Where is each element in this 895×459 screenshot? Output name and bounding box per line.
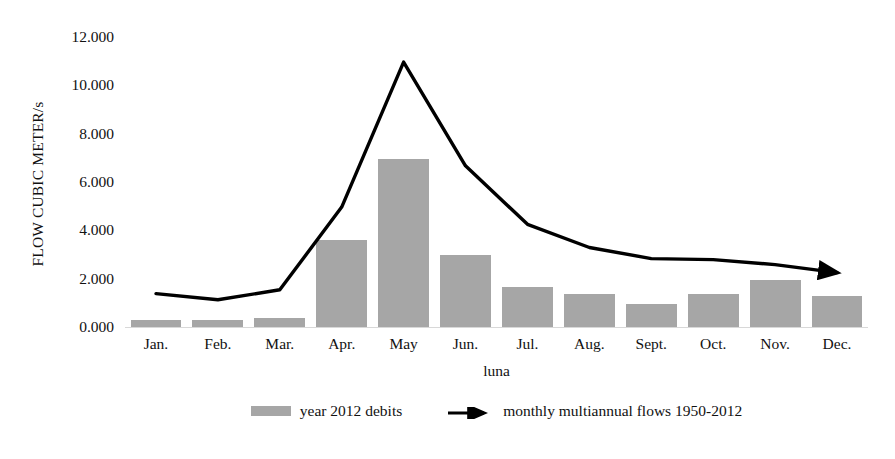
x-axis-baseline bbox=[125, 327, 868, 328]
y-axis-tick: 0.000 bbox=[48, 319, 114, 335]
bar bbox=[564, 294, 615, 327]
bar bbox=[688, 294, 739, 327]
bar bbox=[440, 255, 491, 327]
bar bbox=[626, 304, 677, 327]
bar bbox=[131, 320, 182, 327]
legend-item-bars: year 2012 debits bbox=[251, 402, 402, 420]
bar bbox=[378, 159, 429, 327]
x-axis-tick-labels: Jan.Feb.Mar.Apr.MayJun.Jul.Aug.Sept.Oct.… bbox=[125, 334, 868, 358]
y-axis-tick: 2.000 bbox=[48, 271, 114, 287]
x-axis-tick: Feb. bbox=[187, 334, 249, 354]
x-axis-tick: May bbox=[373, 334, 435, 354]
plot-area bbox=[125, 37, 868, 327]
bar bbox=[192, 320, 243, 327]
x-axis-tick: Oct. bbox=[682, 334, 744, 354]
chart-legend: year 2012 debits monthly multiannual flo… bbox=[125, 398, 868, 424]
y-axis-title: FLOW CUBIC METER/s bbox=[29, 54, 47, 314]
legend-arrow-line-icon bbox=[448, 405, 494, 417]
x-axis-tick: Nov. bbox=[744, 334, 806, 354]
x-axis-tick: Mar. bbox=[249, 334, 311, 354]
x-axis-tick: Dec. bbox=[806, 334, 868, 354]
legend-label-line: monthly multiannual flows 1950-2012 bbox=[503, 402, 742, 420]
bar bbox=[502, 287, 553, 327]
y-axis-tick: 4.000 bbox=[48, 222, 114, 238]
bar bbox=[316, 240, 367, 327]
x-axis-tick: Aug. bbox=[558, 334, 620, 354]
x-axis-tick: Jun. bbox=[435, 334, 497, 354]
bar bbox=[750, 280, 801, 327]
x-axis-tick: Jul. bbox=[497, 334, 559, 354]
x-axis-tick: Jan. bbox=[125, 334, 187, 354]
y-axis-tick: 8.000 bbox=[48, 126, 114, 142]
x-axis-tick: Apr. bbox=[311, 334, 373, 354]
bar-series bbox=[125, 37, 868, 327]
bar bbox=[254, 318, 305, 327]
y-axis-tick: 12.000 bbox=[48, 29, 114, 45]
legend-bar-swatch-icon bbox=[251, 406, 291, 416]
flow-chart: FLOW CUBIC METER/s 12.00010.0008.0006.00… bbox=[0, 0, 895, 459]
y-axis-tick: 6.000 bbox=[48, 174, 114, 190]
bar bbox=[812, 296, 863, 327]
y-axis-tick: 10.000 bbox=[48, 77, 114, 93]
y-axis-tick-labels: 12.00010.0008.0006.0004.0002.0000.000 bbox=[48, 0, 114, 459]
x-axis-title: luna bbox=[125, 362, 868, 380]
legend-label-bars: year 2012 debits bbox=[300, 402, 402, 420]
x-axis-tick: Sept. bbox=[620, 334, 682, 354]
legend-item-line: monthly multiannual flows 1950-2012 bbox=[448, 402, 742, 420]
